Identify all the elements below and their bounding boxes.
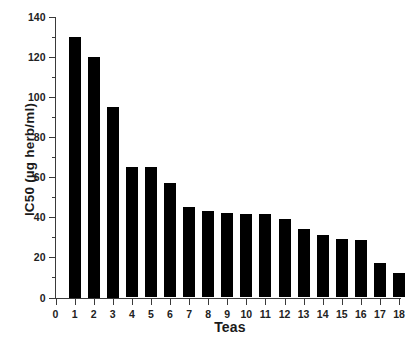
x-axis-tick [380,299,381,305]
x-axis-tick [189,299,190,305]
bar [355,240,367,297]
x-axis-tick [208,299,209,305]
y-axis-tick [49,17,55,18]
y-axis-tick-label: 40 [10,212,46,222]
x-axis-tick [265,299,266,305]
bar [221,213,233,297]
y-axis-minor-tick [52,117,55,118]
x-axis-tick [246,299,247,305]
bar [69,37,81,298]
bar [126,167,138,297]
y-axis-minor-tick [52,37,55,38]
bar [107,107,119,298]
x-axis-tick [151,299,152,305]
y-axis-tick [49,97,55,98]
bar [164,183,176,297]
y-axis-line [55,17,56,299]
y-axis-tick [49,57,55,58]
bar [317,235,329,297]
x-axis-tick [285,299,286,305]
y-axis-tick-label: 120 [10,52,46,62]
y-axis-tick-label: 60 [10,172,46,182]
y-axis-tick-label: 80 [10,132,46,142]
x-axis-tick-label: 18 [388,309,410,319]
bar [374,263,386,297]
plot-area: 0204060801001201400123456789101112131415… [0,0,412,348]
y-axis-tick-label: 0 [10,293,46,303]
x-axis-tick [75,299,76,305]
x-axis-tick [170,299,171,305]
bar [240,214,252,297]
x-axis-tick [323,299,324,305]
y-axis-minor-tick [52,277,55,278]
x-axis-tick [94,299,95,305]
y-axis-minor-tick [52,157,55,158]
y-axis-tick [49,177,55,178]
bar [183,207,195,297]
y-axis-tick [49,217,55,218]
bar [393,273,405,297]
x-axis-tick [56,299,57,305]
y-axis-minor-tick [52,237,55,238]
y-axis-minor-tick [52,77,55,78]
bar [145,167,157,297]
y-axis-tick [49,257,55,258]
y-axis-tick [49,137,55,138]
bar [88,57,100,298]
bar [298,229,310,297]
y-axis-tick-label: 100 [10,92,46,102]
x-axis-tick [342,299,343,305]
bar [202,211,214,297]
y-axis-tick-label: 140 [10,12,46,22]
y-axis-tick-label: 20 [10,252,46,262]
x-axis-tick [227,299,228,305]
x-axis-tick [399,299,400,305]
y-axis-minor-tick [52,197,55,198]
bar [259,214,271,297]
x-axis-tick [361,299,362,305]
x-axis-tick [113,299,114,305]
bar [279,219,291,297]
y-axis-tick [49,298,55,299]
x-axis-tick [304,299,305,305]
bar [336,239,348,297]
bar-chart-figure: IC50 (µg herb/ml) Teas 02040608010012014… [0,0,412,348]
x-axis-tick [132,299,133,305]
